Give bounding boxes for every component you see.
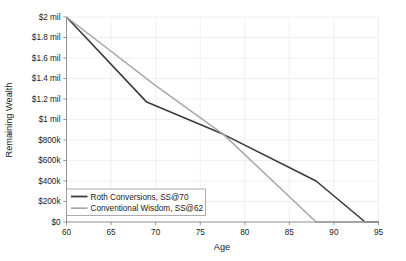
y-axis-tick-label: $1 mil (39, 115, 61, 124)
y-axis-tick-label: $400k (38, 177, 61, 186)
y-axis-tick-label: $0 (51, 218, 61, 227)
x-axis-tick-label: 75 (196, 228, 206, 237)
chart-figure: $0$200k$400k$600k$800k$1 mil$1.2 mil$1.4… (0, 0, 406, 261)
y-axis-tick-label: $200k (38, 197, 61, 206)
y-axis-tick-label: $1.2 mil (32, 95, 61, 104)
y-axis-tick-label: $1.8 mil (32, 33, 61, 42)
legend-label-roth-conversions: Roth Conversions, SS@70 (91, 193, 189, 202)
y-axis-tick-label: $1.6 mil (32, 54, 61, 63)
legend-label-conventional-wisdom: Conventional Wisdom, SS@62 (91, 204, 204, 213)
x-axis-tick-label: 60 (62, 228, 72, 237)
x-axis-tick-label: 95 (374, 228, 384, 237)
x-axis-tick-label: 85 (285, 228, 295, 237)
y-axis-tick-label: $800k (38, 136, 61, 145)
chart-legend[interactable]: Roth Conversions, SS@70Conventional Wisd… (67, 189, 206, 216)
x-axis-tick-label: 80 (240, 228, 250, 237)
x-axis-tick-label: 90 (329, 228, 339, 237)
y-axis-tick-label: $600k (38, 156, 61, 165)
y-axis-tick-label: $1.4 mil (32, 74, 61, 83)
x-axis-title: Age (214, 242, 230, 252)
y-axis-title: Remaining Wealth (4, 83, 14, 158)
line-chart: $0$200k$400k$600k$800k$1 mil$1.2 mil$1.4… (0, 0, 406, 261)
x-axis-tick-label: 70 (151, 228, 161, 237)
x-axis-tick-label: 65 (107, 228, 117, 237)
y-axis-tick-label: $2 mil (39, 13, 61, 22)
